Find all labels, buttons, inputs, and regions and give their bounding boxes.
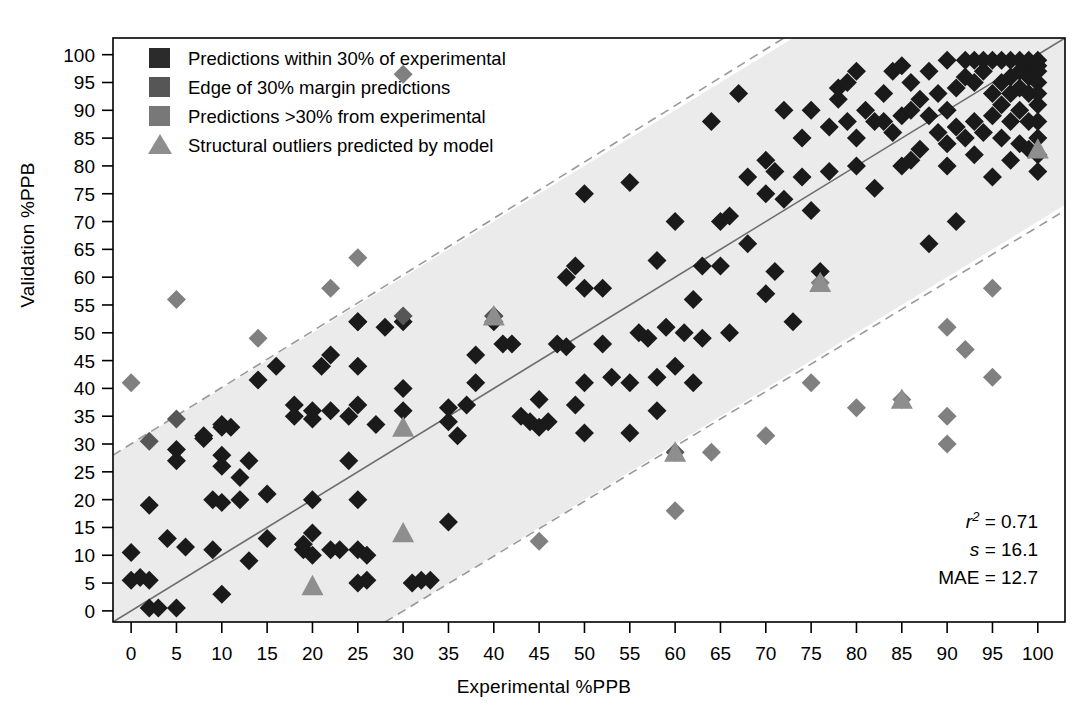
legend-label: Structural outliers predicted by model [188, 135, 493, 156]
y-tick-label: 80 [74, 156, 95, 177]
r2-value: = 0.71 [985, 511, 1038, 532]
s-value: = 16.1 [985, 539, 1038, 560]
x-tick-label: 85 [891, 643, 912, 664]
data-point-diamond [983, 279, 1002, 298]
scatter-plot-svg: 0510152025303540455055606570758085909510… [0, 0, 1088, 713]
svg-text:MAE = 12.7: MAE = 12.7 [938, 567, 1038, 588]
data-point-diamond [938, 407, 957, 426]
data-point-diamond [956, 340, 975, 359]
y-tick-label: 0 [84, 601, 95, 622]
x-tick-label: 90 [937, 643, 958, 664]
data-point-diamond [122, 373, 141, 392]
x-tick-label: 50 [574, 643, 595, 664]
y-tick-label: 65 [74, 239, 95, 260]
x-tick-label: 80 [846, 643, 867, 664]
data-point-diamond [530, 532, 549, 551]
data-point-diamond [321, 279, 340, 298]
y-tick-label: 20 [74, 490, 95, 511]
y-tick-label: 25 [74, 462, 95, 483]
y-tick-label: 60 [74, 267, 95, 288]
data-point-diamond [666, 501, 685, 520]
svg-text:s = 16.1: s = 16.1 [970, 539, 1038, 560]
legend-marker-square [149, 77, 170, 97]
x-tick-label: 95 [982, 643, 1003, 664]
data-point-diamond [938, 318, 957, 337]
x-axis-label: Experimental %PPB [0, 676, 1088, 698]
y-tick-label: 45 [74, 351, 95, 372]
legend-label: Predictions >30% from experimental [188, 106, 486, 127]
y-tick-label: 100 [63, 45, 95, 66]
x-tick-label: 5 [171, 643, 182, 664]
x-tick-label: 20 [302, 643, 323, 664]
y-tick-label: 55 [74, 295, 95, 316]
data-point-diamond [983, 368, 1002, 387]
x-tick-label: 40 [483, 643, 504, 664]
y-tick-label: 30 [74, 434, 95, 455]
y-tick-label: 50 [74, 323, 95, 344]
y-tick-label: 95 [74, 72, 95, 93]
x-tick-label: 10 [211, 643, 232, 664]
x-tick-label: 15 [257, 643, 278, 664]
x-tick-label: 45 [529, 643, 550, 664]
data-point-diamond [847, 398, 866, 417]
data-point-diamond [802, 373, 821, 392]
x-tick-label: 55 [619, 643, 640, 664]
legend: Predictions within 30% of experimentalEd… [148, 48, 506, 156]
legend-marker-square [149, 106, 170, 126]
x-tick-label: 35 [438, 643, 459, 664]
y-axis-label: Validation %PPB [17, 135, 39, 335]
legend-label: Edge of 30% margin predictions [188, 77, 450, 98]
x-axis-ticks: 0510152025303540455055606570758085909510… [126, 622, 1054, 664]
legend-marker-triangle [148, 134, 172, 154]
data-point-diamond [249, 329, 268, 348]
data-point-diamond [702, 443, 721, 462]
x-tick-label: 0 [126, 643, 137, 664]
y-tick-label: 10 [74, 545, 95, 566]
data-point-diamond [938, 435, 957, 454]
data-point-diamond [348, 248, 367, 267]
x-tick-label: 60 [665, 643, 686, 664]
x-tick-label: 30 [393, 643, 414, 664]
y-tick-label: 85 [74, 128, 95, 149]
y-tick-label: 40 [74, 378, 95, 399]
mae-value: = 12.7 [985, 567, 1038, 588]
s-symbol: s [970, 539, 980, 560]
y-tick-label: 70 [74, 212, 95, 233]
data-point-diamond [756, 426, 775, 445]
x-tick-label: 70 [755, 643, 776, 664]
y-tick-label: 5 [84, 573, 95, 594]
legend-marker-square [149, 48, 170, 68]
legend-label: Predictions within 30% of experimental [188, 48, 506, 69]
y-tick-label: 35 [74, 406, 95, 427]
y-tick-label: 15 [74, 517, 95, 538]
chart-root: 0510152025303540455055606570758085909510… [0, 0, 1088, 713]
data-point-diamond [167, 290, 186, 309]
y-tick-label: 90 [74, 100, 95, 121]
y-tick-label: 75 [74, 184, 95, 205]
x-tick-label: 65 [710, 643, 731, 664]
x-tick-label: 100 [1022, 643, 1054, 664]
y-axis-ticks: 0510152025303540455055606570758085909510… [63, 45, 113, 622]
mae-symbol: MAE [938, 567, 979, 588]
svg-text:r2 = 0.71: r2 = 0.71 [966, 509, 1038, 532]
stats-annotation: r2 = 0.71 s = 16.1 MAE = 12.7 [938, 509, 1038, 588]
x-tick-label: 75 [801, 643, 822, 664]
x-tick-label: 25 [347, 643, 368, 664]
